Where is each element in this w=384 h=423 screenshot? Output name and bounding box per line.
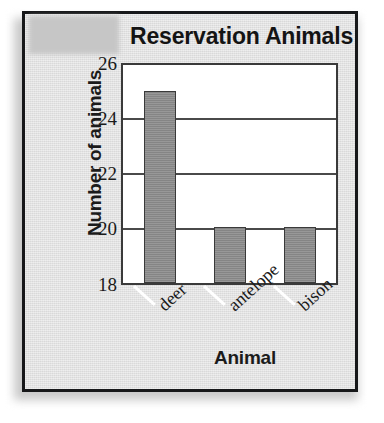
plot-area [121,63,338,285]
y-tick-label: 20 [77,219,117,238]
tick-leader-line [203,285,226,306]
y-tick-label: 26 [77,54,117,73]
y-tick-label: 18 [77,275,117,294]
tick-leader-line [273,285,296,306]
bar-deer [144,91,176,283]
chart-frame: Reservation Animals Number of animals 26… [22,11,358,392]
y-tick-label: 22 [77,164,117,183]
y-tick-label: 24 [77,109,117,128]
x-tick-label: deer [154,279,191,315]
y-axis-tick-labels: 26 24 22 20 18 [69,63,117,285]
chart-title: Reservation Animals [85,23,353,50]
bar-bison [284,227,316,283]
x-axis-title: Animal [145,347,345,369]
bar-antelope [214,227,246,283]
scanned-page: Reservation Animals Number of animals 26… [0,0,384,423]
tick-leader-line [133,285,156,306]
